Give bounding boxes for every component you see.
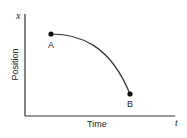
point-a-marker — [48, 31, 53, 36]
graph-canvas — [0, 0, 187, 138]
x-axis-variable: t — [175, 118, 178, 128]
point-b-marker — [127, 91, 132, 96]
position-curve — [51, 34, 130, 94]
y-axis-variable: x — [16, 11, 20, 21]
x-axis-label: Time — [87, 120, 107, 129]
y-axis-label: Position — [11, 46, 20, 84]
point-a-label: A — [48, 41, 54, 50]
point-b-label: B — [127, 100, 133, 109]
position-time-graph: x t Position Time A B — [0, 0, 187, 138]
